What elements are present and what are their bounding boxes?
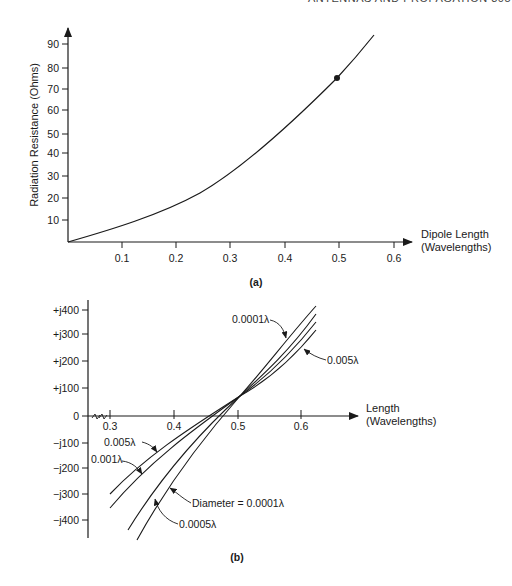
chart-b-x-ticks bbox=[110, 410, 301, 419]
svg-text:−j100: −j100 bbox=[53, 437, 79, 449]
chart-a-y-tick-labels: 10 20 30 40 50 60 70 80 90 bbox=[47, 38, 59, 226]
svg-text:0: 0 bbox=[73, 410, 79, 422]
svg-text:+j100: +j100 bbox=[53, 382, 79, 394]
chart-b-panel-label: (b) bbox=[230, 551, 243, 563]
anno-0.0005-lambda: 0.0005λ bbox=[179, 518, 217, 530]
chart-b-y-tick-labels: +j400 +j300 +j200 +j100 0 −j100 −j200 −j… bbox=[53, 304, 79, 526]
svg-text:70: 70 bbox=[47, 83, 59, 95]
svg-text:−j400: −j400 bbox=[53, 514, 79, 526]
svg-text:0.4: 0.4 bbox=[278, 252, 293, 264]
chart-a: 10 20 30 40 50 60 70 80 90 Radiation Res… bbox=[28, 28, 492, 288]
svg-text:0.1: 0.1 bbox=[115, 252, 130, 264]
chart-b-x-title-line2: (Wavelengths) bbox=[366, 415, 437, 427]
svg-text:0.4: 0.4 bbox=[167, 420, 182, 432]
svg-text:0.3: 0.3 bbox=[103, 420, 118, 432]
svg-text:+j200: +j200 bbox=[53, 355, 79, 367]
curve-0.005-lambda bbox=[110, 330, 316, 494]
svg-text:0.5: 0.5 bbox=[231, 420, 246, 432]
figure: 10 20 30 40 50 60 70 80 90 Radiation Res… bbox=[0, 0, 512, 586]
svg-text:40: 40 bbox=[47, 147, 59, 159]
svg-text:90: 90 bbox=[47, 38, 59, 50]
anno-low-0.001-lambda: 0.001λ bbox=[91, 453, 123, 465]
svg-text:50: 50 bbox=[47, 128, 59, 140]
svg-text:0.5: 0.5 bbox=[332, 252, 347, 264]
svg-text:+j400: +j400 bbox=[53, 304, 79, 316]
chart-b: +j400 +j300 +j200 +j100 0 −j100 −j200 −j… bbox=[53, 300, 437, 563]
chart-a-x-title-line1: Dipole Length bbox=[421, 228, 489, 240]
svg-text:20: 20 bbox=[47, 192, 59, 204]
anno-top-0.005-lambda: 0.005λ bbox=[327, 354, 359, 366]
svg-text:10: 10 bbox=[47, 214, 59, 226]
svg-text:80: 80 bbox=[47, 62, 59, 74]
svg-text:0.2: 0.2 bbox=[169, 252, 184, 264]
curve-0.001-lambda bbox=[110, 322, 316, 508]
chart-a-y-ticks bbox=[62, 44, 68, 220]
anno-diameter-0.0001-lambda: Diameter = 0.0001λ bbox=[192, 497, 285, 509]
svg-text:−j300: −j300 bbox=[53, 488, 79, 500]
svg-text:0.3: 0.3 bbox=[223, 252, 238, 264]
chart-a-x-tick-labels: 0.1 0.2 0.3 0.4 0.5 0.6 bbox=[115, 252, 402, 264]
anno-low-0.005-lambda: 0.005λ bbox=[104, 436, 136, 448]
chart-a-y-title: Radiation Resistance (Ohms) bbox=[28, 63, 40, 207]
chart-b-x-title-line1: Length bbox=[366, 402, 400, 414]
svg-text:60: 60 bbox=[47, 104, 59, 116]
svg-text:30: 30 bbox=[47, 170, 59, 182]
svg-text:−j200: −j200 bbox=[53, 462, 79, 474]
chart-a-x-ticks bbox=[122, 242, 394, 248]
chart-a-resistance-curve bbox=[68, 35, 374, 242]
chart-a-half-wave-marker bbox=[334, 75, 340, 81]
chart-b-annotations: 0.0001λ 0.005λ 0.005λ 0.001λ Diameter = … bbox=[91, 313, 359, 530]
svg-text:0.6: 0.6 bbox=[294, 420, 309, 432]
chart-b-y-ticks bbox=[82, 310, 88, 520]
chart-a-x-title-line2: (Wavelengths) bbox=[421, 241, 492, 253]
svg-text:0.6: 0.6 bbox=[387, 252, 402, 264]
svg-text:+j300: +j300 bbox=[53, 328, 79, 340]
chart-a-panel-label: (a) bbox=[250, 276, 263, 288]
anno-top-0.0001-lambda: 0.0001λ bbox=[232, 313, 270, 325]
